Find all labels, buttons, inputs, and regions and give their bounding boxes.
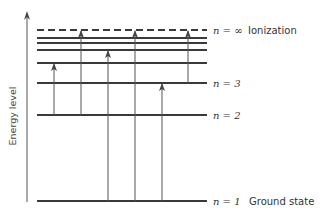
level-lines [37,30,207,201]
energy-axis [24,11,30,202]
label-n3: n = 3 [213,78,241,89]
axis-label: Energy level [7,87,18,146]
label-n1: n = 1 [213,196,241,207]
label-n-inf: n = ∞ [213,25,243,36]
energy-level-diagram: Energy level n = ∞ Ionization n = 3 n = … [0,0,320,217]
label-ground-state: Ground state [249,196,314,207]
label-ionization: Ionization [248,25,297,36]
transition-arrows [54,31,188,201]
label-n2: n = 2 [213,110,241,121]
